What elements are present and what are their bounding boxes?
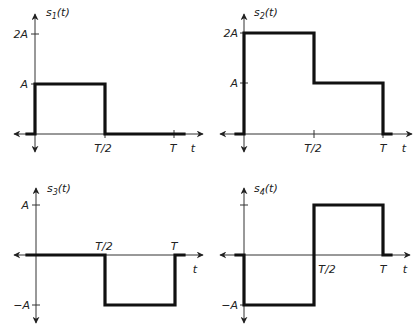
panel-s2: s2(t) 2A A T/2 T t — [220, 6, 412, 155]
y-tick-label: A — [19, 78, 28, 91]
x-tick-label: T/2 — [95, 240, 112, 253]
panel-s1: s1(t) 2A A T/2 T t — [13, 6, 203, 155]
panel-s3: s3(t) A −A T/2 T t — [13, 182, 203, 323]
x-axis-label: t — [403, 263, 408, 276]
signal-diagram: s1(t) 2A A T/2 T t s2(t) 2A A T/2 T t s3… — [0, 0, 420, 335]
panel-s4: s4(t) −A T/2 T t — [220, 182, 410, 323]
y-tick-label: −A — [13, 299, 30, 312]
x-tick-label: T/2 — [304, 142, 321, 155]
signal-trace — [236, 33, 391, 134]
x-tick-label: T — [170, 142, 178, 155]
x-tick-label: T — [380, 263, 388, 276]
x-axis-label: t — [191, 142, 196, 155]
x-axis-label: t — [193, 263, 198, 276]
x-tick-label: T/2 — [94, 142, 111, 155]
x-tick-label: T — [380, 142, 388, 155]
plot-title: s1(t) — [46, 6, 70, 21]
plot-title: s3(t) — [47, 182, 71, 197]
y-tick-label: 2A — [13, 28, 28, 41]
y-tick-label: A — [20, 199, 29, 212]
signal-trace — [27, 255, 184, 305]
y-tick-label: −A — [221, 299, 238, 312]
x-tick-label: T/2 — [318, 263, 335, 276]
x-axis-label: t — [402, 142, 407, 155]
y-tick-label: 2A — [223, 27, 238, 40]
plot-title: s2(t) — [254, 6, 278, 21]
x-tick-label: T — [171, 240, 179, 253]
plot-title: s4(t) — [254, 182, 278, 197]
y-tick-label: A — [229, 77, 238, 90]
signal-trace — [27, 84, 184, 134]
